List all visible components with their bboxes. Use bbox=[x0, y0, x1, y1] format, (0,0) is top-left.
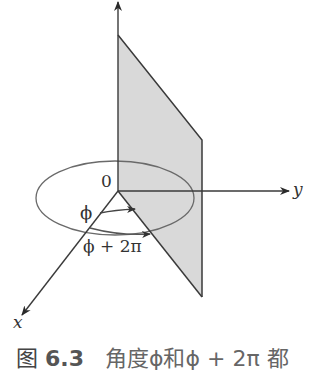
figure-caption: 图 6.3 角度ϕ和ϕ + 2π 都 bbox=[16, 348, 289, 370]
caption-text: 角度ϕ和ϕ + 2π 都 bbox=[105, 346, 289, 371]
x-axis-label: x bbox=[13, 314, 23, 331]
origin-label: 0 bbox=[101, 173, 112, 190]
half-plane bbox=[118, 35, 202, 297]
phi-label: ϕ bbox=[80, 204, 92, 222]
caption-figure-word: 图 bbox=[16, 346, 38, 371]
caption-figure-number: 6.3 bbox=[45, 346, 84, 371]
phi-arc-arrow bbox=[100, 209, 135, 213]
phi-plus-2pi-label: ϕ + 2π bbox=[83, 238, 142, 255]
y-axis-label: y bbox=[293, 181, 303, 198]
